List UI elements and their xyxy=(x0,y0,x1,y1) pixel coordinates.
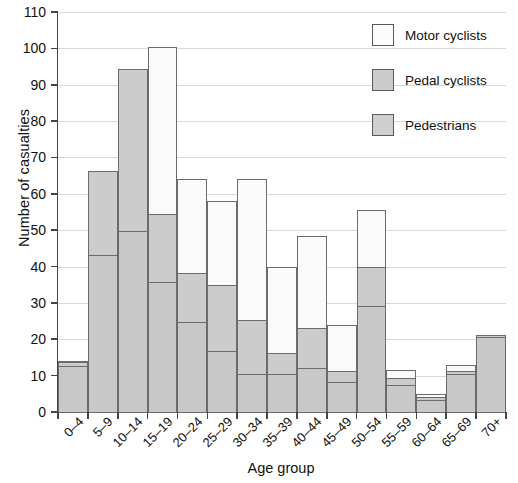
y-tick-label-100: 100 xyxy=(23,40,46,56)
bar-segment[interactable] xyxy=(207,201,237,286)
bar-segment[interactable] xyxy=(207,285,237,352)
y-tick-70 xyxy=(51,157,58,159)
y-tick-80 xyxy=(51,120,58,122)
bar-column[interactable] xyxy=(177,12,207,412)
legend-swatch-ped xyxy=(372,114,394,136)
bar-segment[interactable] xyxy=(237,179,267,321)
legend-item[interactable]: Motor cyclists xyxy=(372,24,487,46)
legend-item[interactable]: Pedestrians xyxy=(372,114,487,136)
bar-column[interactable] xyxy=(237,12,267,412)
bar-segment[interactable] xyxy=(148,47,178,216)
legend-swatch-motor xyxy=(372,24,394,46)
x-axis-tick-labels: 0–45–910–1415–1920–2425–2930–3435–3940–4… xyxy=(57,414,505,466)
bar-column[interactable] xyxy=(267,12,297,412)
bar-segment[interactable] xyxy=(297,328,327,369)
bar-column[interactable] xyxy=(58,12,88,412)
bar-segment[interactable] xyxy=(118,231,148,413)
bar-column[interactable] xyxy=(297,12,327,412)
y-tick-label-90: 90 xyxy=(30,77,46,93)
y-tick-label-110: 110 xyxy=(24,4,46,20)
y-tick-50 xyxy=(51,229,58,231)
bar-segment[interactable] xyxy=(267,353,297,376)
bar-segment[interactable] xyxy=(327,325,357,372)
y-tick-30 xyxy=(51,302,58,304)
y-tick-20 xyxy=(51,338,58,340)
x-axis-title: Age group xyxy=(57,460,505,476)
legend-label: Motor cyclists xyxy=(405,28,487,43)
bar-segment[interactable] xyxy=(177,273,207,324)
bar-segment[interactable] xyxy=(177,179,207,274)
y-tick-100 xyxy=(51,48,58,50)
bar-segment[interactable] xyxy=(148,214,178,283)
bar-column[interactable] xyxy=(118,12,148,412)
legend-item[interactable]: Pedal cyclists xyxy=(372,69,487,91)
legend-label: Pedestrians xyxy=(405,118,476,133)
y-tick-90 xyxy=(51,84,58,86)
bar-column[interactable] xyxy=(88,12,118,412)
bar-segment[interactable] xyxy=(357,267,387,307)
y-tick-label-70: 70 xyxy=(30,149,46,165)
bar-column[interactable] xyxy=(148,12,178,412)
bar-chart: Number of casualties 0102030405060708090… xyxy=(0,0,518,483)
y-tick-label-40: 40 xyxy=(30,259,46,275)
bar-column[interactable] xyxy=(327,12,357,412)
y-tick-10 xyxy=(51,375,58,377)
bar-segment[interactable] xyxy=(118,69,148,233)
y-tick-60 xyxy=(51,193,58,195)
bar-segment[interactable] xyxy=(237,320,267,375)
bar-column[interactable] xyxy=(207,12,237,412)
bar-segment[interactable] xyxy=(297,236,327,329)
legend: Motor cyclistsPedal cyclistsPedestrians xyxy=(372,24,487,136)
y-tick-110 xyxy=(51,11,58,13)
bar-segment[interactable] xyxy=(357,210,387,268)
y-tick-label-20: 20 xyxy=(30,331,46,347)
y-tick-40 xyxy=(51,266,58,268)
bar-segment[interactable] xyxy=(88,171,118,256)
y-tick-label-30: 30 xyxy=(30,295,46,311)
bar-segment[interactable] xyxy=(88,255,118,413)
y-tick-label-0: 0 xyxy=(38,404,46,420)
legend-label: Pedal cyclists xyxy=(405,73,487,88)
legend-swatch-pedal xyxy=(372,69,394,91)
y-tick-label-60: 60 xyxy=(30,186,46,202)
y-tick-label-50: 50 xyxy=(30,222,46,238)
y-tick-label-80: 80 xyxy=(30,113,46,129)
y-tick-label-10: 10 xyxy=(30,368,46,384)
bar-segment[interactable] xyxy=(267,267,297,354)
